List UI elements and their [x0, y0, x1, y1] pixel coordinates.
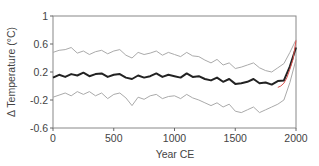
y-tick-label: -0.6: [30, 122, 48, 134]
axes: 10.60.2-0.2-0.60500100015002000: [30, 10, 308, 145]
temperature-chart: 10.60.2-0.2-0.60500100015002000 Year CE …: [0, 0, 319, 166]
x-tick-label: 500: [105, 132, 123, 144]
plot-frame: [53, 16, 296, 128]
y-tick-label: -0.2: [30, 94, 48, 106]
x-axis-label: Year CE: [156, 148, 195, 160]
y-tick-label: 0.6: [33, 38, 48, 50]
mean-line: [53, 48, 296, 85]
series-group: [53, 40, 296, 113]
x-tick-label: 1000: [163, 132, 187, 144]
y-tick-label: 0.2: [33, 66, 48, 78]
upper-bound-line: [53, 40, 296, 72]
y-tick-label: 1: [42, 10, 48, 22]
x-tick-label: 0: [50, 132, 56, 144]
x-tick-label: 1500: [224, 132, 248, 144]
x-tick-label: 2000: [284, 132, 308, 144]
y-axis-label: Δ Temperature (°C): [5, 27, 17, 117]
